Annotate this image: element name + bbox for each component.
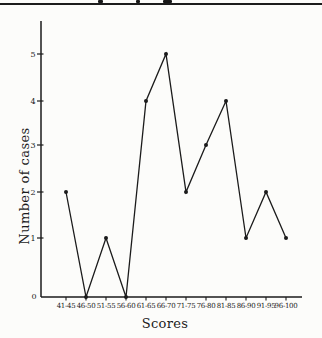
data-point-marker xyxy=(164,52,168,56)
x-tick-label: 71-75 xyxy=(177,302,196,310)
data-point-marker xyxy=(84,295,88,299)
y-tick-label: 0 xyxy=(31,292,36,301)
x-tick-label: 76-80 xyxy=(197,302,216,310)
x-axis-title: Scores xyxy=(142,316,188,331)
plot-svg: 01234541-4546-5051-5556-6061-6566-7071-7… xyxy=(0,6,322,338)
data-point-marker xyxy=(144,99,148,103)
y-tick-label: 4 xyxy=(30,97,35,106)
data-point-marker xyxy=(244,236,248,240)
x-tick-label: 51-55 xyxy=(97,302,116,310)
x-tick-label: 66-70 xyxy=(157,302,176,310)
x-tick-label: 46-50 xyxy=(77,302,96,310)
y-axis-title: Number of cases xyxy=(17,127,32,244)
x-tick-label: 41-45 xyxy=(57,302,76,310)
data-point-marker xyxy=(64,190,68,194)
data-point-marker xyxy=(184,190,188,194)
data-point-marker xyxy=(264,190,268,194)
x-tick-label: 81-85 xyxy=(217,302,236,310)
x-tick-label: 56-60 xyxy=(117,302,136,310)
data-point-marker xyxy=(104,236,108,240)
data-point-marker xyxy=(224,99,228,103)
data-point-marker xyxy=(284,236,288,240)
x-tick-label: 96-100 xyxy=(275,302,298,310)
data-point-marker xyxy=(124,295,128,299)
x-tick-label: 86-90 xyxy=(237,302,256,310)
x-tick-label: 91-95 xyxy=(257,302,276,310)
frequency-polygon-chart: 01234541-4546-5051-5556-6061-6566-7071-7… xyxy=(0,6,322,338)
data-polyline xyxy=(66,54,286,297)
data-point-marker xyxy=(204,143,208,147)
top-rule-divider xyxy=(0,3,322,5)
x-tick-label: 61-65 xyxy=(137,302,156,310)
y-tick-label: 5 xyxy=(30,50,35,59)
